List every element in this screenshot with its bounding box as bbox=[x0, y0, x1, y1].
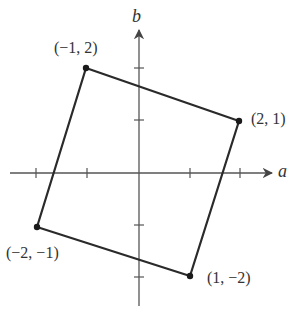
b-axis-label: b bbox=[132, 7, 141, 25]
coordinate-plane bbox=[0, 0, 300, 314]
vertex-label-neg2-neg1: (−2, −1) bbox=[6, 245, 59, 261]
vertex-dot-1-neg2 bbox=[187, 273, 193, 279]
vertex-dot-neg1-2 bbox=[83, 65, 89, 71]
square-outline bbox=[37, 68, 239, 276]
vertex-dot-neg2-neg1 bbox=[34, 224, 40, 230]
vertex-label-2-1: (2, 1) bbox=[251, 111, 286, 127]
a-axis-label: a bbox=[278, 162, 287, 180]
vertex-dot-2-1 bbox=[236, 118, 242, 124]
vertex-label-neg1-2: (−1, 2) bbox=[54, 40, 98, 56]
vertex-label-1-neg2: (1, −2) bbox=[207, 270, 251, 286]
